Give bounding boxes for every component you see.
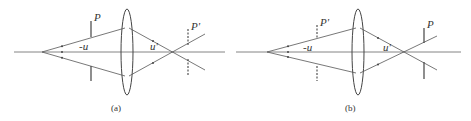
label-p: P bbox=[426, 18, 434, 30]
label-p-prime: P' bbox=[319, 16, 330, 28]
lens-diagram: P -u u' P' (a) P bbox=[0, 0, 471, 121]
label-u-prime: u' bbox=[383, 41, 392, 53]
panel-b: P' -u u' P (b) bbox=[236, 9, 461, 113]
label-p: P bbox=[93, 11, 101, 23]
label-u-prime: u' bbox=[150, 40, 159, 52]
panel-a: P -u u' P' (a) bbox=[14, 9, 225, 113]
caption-b: (b) bbox=[345, 103, 356, 113]
caption-a: (a) bbox=[111, 103, 121, 113]
ray-arrows bbox=[287, 37, 379, 66]
label-minus-u: -u bbox=[79, 40, 89, 52]
label-minus-u: -u bbox=[303, 41, 313, 53]
label-p-prime: P' bbox=[190, 20, 201, 32]
